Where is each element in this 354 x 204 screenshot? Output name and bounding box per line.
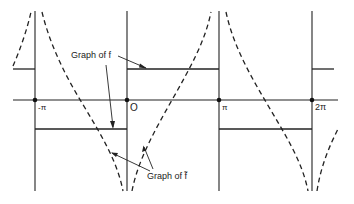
tick-label-2pi: 2π xyxy=(315,102,326,112)
tick-label-zero: O xyxy=(130,102,138,113)
graph-f xyxy=(13,69,334,129)
tick-label-neg-pi: -π xyxy=(38,103,47,112)
graph-canvas: -π O π 2π Graph of f Graph of f̃ xyxy=(0,0,354,204)
tick-label-pi: π xyxy=(222,103,228,112)
label-graph-of-f-tilde: Graph of f̃ xyxy=(147,171,188,181)
graph-f-tilde xyxy=(13,12,338,191)
arrowheads xyxy=(110,64,147,158)
label-graph-of-f: Graph of f xyxy=(71,50,112,60)
diagram: -π O π 2π Graph of f Graph of f̃ xyxy=(0,0,354,204)
